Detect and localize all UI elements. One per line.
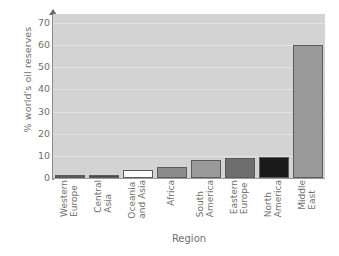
y-axis-tick-label: 40 <box>28 84 50 94</box>
y-axis-tick-label: 20 <box>28 129 50 139</box>
bar <box>293 45 323 178</box>
x-axis-tick-label: SouthAmerica <box>196 180 215 217</box>
x-axis-tick-slot: SouthAmerica <box>189 180 223 228</box>
bar-slot <box>189 14 223 178</box>
bar <box>89 175 119 178</box>
x-axis-tick-slot: Oceaniaand Asia <box>121 180 155 228</box>
bar-slot <box>87 14 121 178</box>
bar-slot <box>223 14 257 178</box>
bar <box>225 158 255 178</box>
bar <box>123 170 153 178</box>
x-axis-tick-label: MiddleEast <box>298 180 317 210</box>
x-axis-tick-label: EasternEurope <box>230 180 249 214</box>
x-axis-tick-slot: MiddleEast <box>291 180 325 228</box>
bar-chart-figure: % world's oil reserves 010203040506070 W… <box>0 0 339 256</box>
bar-slot <box>121 14 155 178</box>
bar <box>55 175 85 178</box>
x-axis-tick-label: CentralAsia <box>94 180 113 213</box>
bar-slot <box>155 14 189 178</box>
x-axis-tick-label: NorthAmerica <box>264 180 283 217</box>
y-axis-tick-label: 10 <box>28 151 50 161</box>
x-axis-tick-slot: CentralAsia <box>87 180 121 228</box>
x-axis-tick-label: Oceaniaand Asia <box>128 180 147 219</box>
y-axis-tick-label: 0 <box>28 173 50 183</box>
bar-series <box>53 14 325 178</box>
y-axis-tick-label: 60 <box>28 40 50 50</box>
y-axis-tick-label: 30 <box>28 107 50 117</box>
y-axis-tick-label: 70 <box>28 18 50 28</box>
y-axis-tick-labels: 010203040506070 <box>28 0 50 256</box>
x-axis-tick-labels: WesternEuropeCentralAsiaOceaniaand AsiaA… <box>53 180 325 228</box>
bar-slot <box>257 14 291 178</box>
x-axis-tick-label: Africa <box>167 180 177 206</box>
bar <box>157 167 187 178</box>
x-axis-tick-slot: WesternEurope <box>53 180 87 228</box>
y-axis-tick-label: 50 <box>28 62 50 72</box>
bar <box>259 157 289 178</box>
bar-slot <box>291 14 325 178</box>
bar <box>191 160 221 178</box>
x-axis-tick-label: WesternEurope <box>60 180 79 217</box>
x-axis-tick-slot: Africa <box>155 180 189 228</box>
bar-slot <box>53 14 87 178</box>
x-axis-title: Region <box>53 233 325 244</box>
x-axis-tick-slot: NorthAmerica <box>257 180 291 228</box>
x-axis-tick-slot: EasternEurope <box>223 180 257 228</box>
plot-area <box>53 14 325 178</box>
